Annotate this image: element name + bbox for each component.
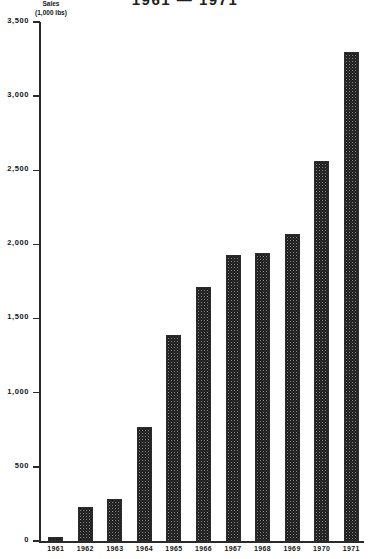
y-axis-label: Sales (1,000 lbs) [8, 0, 94, 17]
bar-1961 [48, 537, 63, 541]
bar-1967 [226, 255, 241, 541]
y-axis-tick-label: 0 [24, 535, 29, 544]
bar-1970 [314, 161, 329, 541]
bars-layer: 1961196219631964196519661967196819691970… [39, 22, 364, 541]
x-axis-tick-label: 1965 [159, 545, 188, 552]
bar-1965 [166, 335, 181, 541]
bar-group: 1966 [196, 22, 211, 541]
x-axis-tick-label: 1970 [307, 545, 336, 552]
bar-1964 [137, 427, 152, 541]
x-axis-tick-label: 1962 [71, 545, 100, 552]
x-axis-line [39, 541, 364, 543]
y-axis-label-text: Sales [8, 0, 94, 9]
bar-group: 1967 [226, 22, 241, 541]
bar-group: 1970 [314, 22, 329, 541]
bar-group: 1962 [78, 22, 93, 541]
bar-group: 1965 [166, 22, 181, 541]
bar-1968 [255, 253, 270, 541]
bar-group: 1968 [255, 22, 270, 541]
bar-group: 1971 [344, 22, 359, 541]
x-axis-tick-label: 1963 [100, 545, 129, 552]
bar-1971 [344, 52, 359, 541]
bar-group: 1963 [107, 22, 122, 541]
x-axis-tick-label: 1964 [130, 545, 159, 552]
x-axis-tick-label: 1967 [219, 545, 248, 552]
y-axis-tick-label: 1,000 [7, 387, 29, 396]
y-axis-tick-label: 2,000 [7, 238, 29, 247]
y-axis-tick-label: 3,500 [7, 16, 29, 25]
bar-chart-figure: 1961 — 1971 Sales (1,000 lbs) 05001,0001… [0, 0, 370, 559]
plot-area: 05001,0001,5002,0002,5003,0003,500 19611… [39, 22, 364, 541]
y-axis-tick-label: 3,000 [7, 90, 29, 99]
bar-1963 [107, 499, 122, 541]
x-axis-tick-label: 1969 [278, 545, 307, 552]
bar-1969 [285, 234, 300, 541]
bar-group: 1961 [48, 22, 63, 541]
x-axis-tick-label: 1971 [337, 545, 366, 552]
y-axis-tick-label: 2,500 [7, 164, 29, 173]
x-axis-tick-label: 1966 [189, 545, 218, 552]
bar-group: 1969 [285, 22, 300, 541]
bar-1966 [196, 287, 211, 541]
y-axis-tick-label: 500 [15, 461, 29, 470]
y-axis-tick-label: 1,500 [7, 312, 29, 321]
bar-1962 [78, 507, 93, 541]
bar-group: 1964 [137, 22, 152, 541]
x-axis-tick-label: 1961 [41, 545, 70, 552]
x-axis-tick-label: 1968 [248, 545, 277, 552]
